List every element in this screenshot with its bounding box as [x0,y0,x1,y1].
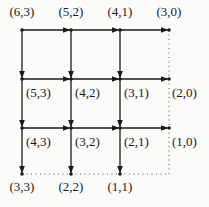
node-3-1 [118,77,122,81]
node-label-1-1: (1,1) [108,179,133,194]
state-grid-diagram: (6,3)(5,2)(4,1)(3,0)(5,3)(4,2)(3,1)(2,0)… [0,0,209,207]
node-1-0 [167,126,171,130]
node-3-3 [20,172,24,176]
nodes-layer [20,28,171,176]
node-5-3 [20,77,24,81]
node-4-2 [69,77,73,81]
node-label-4-1: (4,1) [108,4,133,19]
node-2-1 [118,126,122,130]
node-label-3-1: (3,1) [124,85,149,100]
node-label-5-3: (5,3) [26,85,51,100]
node-label-2-0: (2,0) [172,85,197,100]
node-6-3 [20,28,24,32]
node-2-2 [69,172,73,176]
node-2-0 [167,77,171,81]
node-4-1 [118,28,122,32]
node-3-2 [69,126,73,130]
node-label-2-2: (2,2) [59,179,84,194]
node-4-3 [20,126,24,130]
node-label-1-0: (1,0) [172,134,197,149]
node-label-2-1: (2,1) [124,134,149,149]
edges-layer [22,30,169,174]
node-label-3-3: (3,3) [10,179,35,194]
node-label-4-3: (4,3) [26,134,51,149]
node-5-2 [69,28,73,32]
node-label-4-2: (4,2) [75,85,100,100]
node-label-3-0: (3,0) [157,4,182,19]
node-label-5-2: (5,2) [59,4,84,19]
node-label-3-2: (3,2) [75,134,100,149]
labels-layer: (6,3)(5,2)(4,1)(3,0)(5,3)(4,2)(3,1)(2,0)… [10,4,197,194]
node-1-1 [118,172,122,176]
node-label-6-3: (6,3) [10,4,35,19]
node-3-0 [167,28,171,32]
